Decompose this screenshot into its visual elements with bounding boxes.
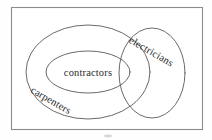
venn-diagram-figure: contractors carpenters electricians bbox=[0, 0, 212, 140]
scan-artifact-smudge bbox=[104, 135, 112, 138]
contractors-set-label: contractors bbox=[64, 67, 112, 78]
venn-diagram-canvas: contractors carpenters electricians bbox=[0, 0, 212, 140]
